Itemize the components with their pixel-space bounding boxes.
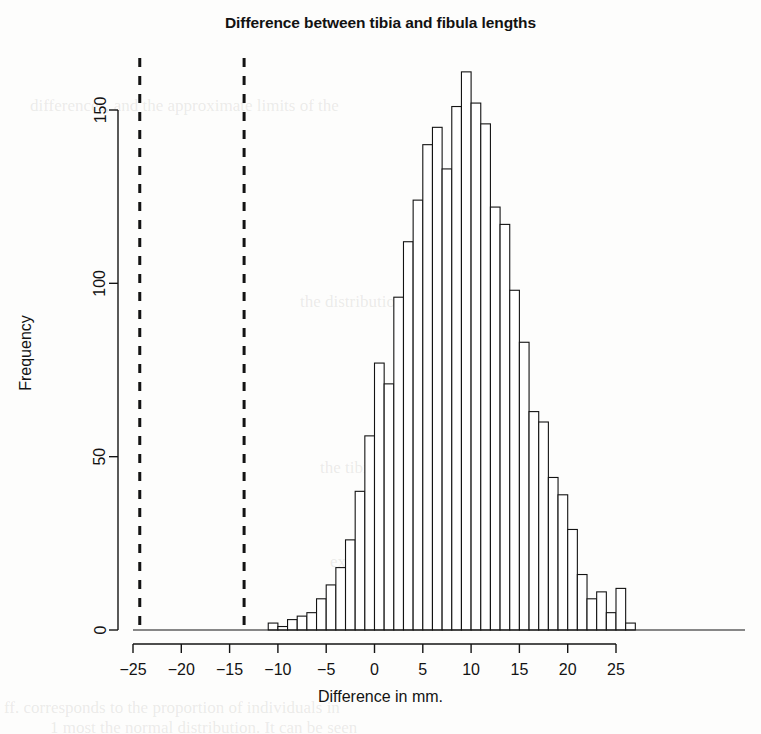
x-tick-label: 0 [370,661,379,678]
x-tick-label: −25 [119,661,146,678]
histogram-bar [597,592,607,630]
x-tick-labels: −25−20−15−10−50510152025 [119,661,625,678]
histogram-bar [307,613,317,630]
histogram-bar [461,72,471,630]
histogram-bar [423,145,433,630]
histogram-bar [336,568,346,630]
histogram-bar [288,620,298,630]
histogram-bar [317,599,327,630]
histogram-bar [548,477,558,630]
x-tick-label: 25 [607,661,625,678]
x-tick-label: −5 [317,661,335,678]
histogram-bar [500,224,510,630]
histogram-bar [394,297,404,630]
figure-canvas: differences, and the approximate limits … [0,0,761,734]
histogram-bar [452,107,462,630]
y-tick-label: 50 [92,448,109,466]
histogram-bar [471,103,481,630]
histogram-bar [626,623,636,630]
x-tick-label: 20 [559,661,577,678]
histogram-bar [375,363,385,630]
x-tick-label: −20 [168,661,195,678]
x-tick-label: 5 [418,661,427,678]
histogram-bar [577,575,587,630]
histogram-bar [539,422,549,630]
histogram-plot: −25−20−15−10−50510152025 050100150 [0,0,761,734]
y-tick-label: 150 [92,97,109,124]
histogram-bar [442,169,452,630]
histogram-bar [403,242,413,630]
x-axis-label: Difference in mm. [0,688,761,706]
y-tick-labels: 050100150 [92,97,109,635]
histogram-bar [490,207,500,630]
y-tick-label: 100 [92,270,109,297]
histogram-bars [268,72,635,630]
histogram-bar [355,491,365,630]
histogram-bar [413,200,423,630]
histogram-bar [268,623,278,630]
x-tick-label: 10 [462,661,480,678]
histogram-bar [297,616,307,630]
y-axis [109,110,118,630]
histogram-bar [519,342,529,630]
histogram-bar [568,529,578,630]
x-tick-label: 15 [511,661,529,678]
x-tick-label: −15 [216,661,243,678]
histogram-bar [326,585,336,630]
reference-lines [140,58,244,630]
histogram-bar [346,540,356,630]
x-axis [133,630,745,653]
histogram-bar [587,599,597,630]
histogram-bar [384,384,394,630]
histogram-bar [558,495,568,630]
histogram-bar [606,613,616,630]
histogram-bar [365,436,375,630]
y-tick-label: 0 [92,625,109,634]
histogram-bar [616,588,626,630]
histogram-bar [432,127,442,630]
histogram-bar [529,412,539,630]
histogram-bar [510,290,520,630]
histogram-bar [481,124,491,630]
y-axis-label: Frequency [17,283,35,423]
x-tick-label: −10 [264,661,291,678]
